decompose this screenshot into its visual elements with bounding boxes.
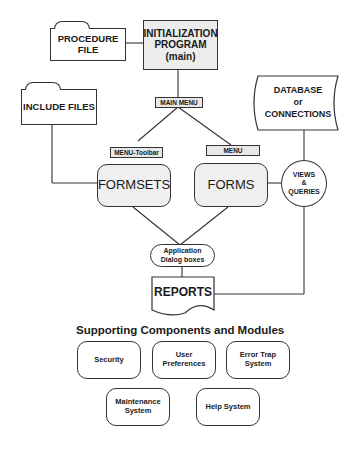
procedure-file-label: PROCEDURE FILE <box>51 34 125 56</box>
database-label-1: DATABASE <box>274 85 323 97</box>
init-label-2: PROGRAM <box>154 39 206 51</box>
menu-node: MENU <box>206 145 260 156</box>
reports-node: REPORTS <box>152 280 214 306</box>
dialog-label-2: Dialog boxes <box>161 256 205 264</box>
procedure-file-node: PROCEDURE FILE <box>50 28 126 61</box>
support-item-security: Security <box>77 341 141 379</box>
main-menu-node: MAIN MENU <box>155 97 203 108</box>
support-item-user-preferences: User Preferences <box>152 341 216 379</box>
support-label: Help System <box>205 403 250 412</box>
views-label-2: & <box>301 179 306 187</box>
init-label-3: (main) <box>166 51 196 63</box>
database-node: DATABASE or CONNECTIONS <box>258 76 338 130</box>
database-label-3: CONNECTIONS <box>265 109 332 121</box>
forms-node: FORMS <box>194 163 268 207</box>
support-item-maintenance: Maintenance System <box>106 388 170 426</box>
dialog-boxes-node: Application Dialog boxes <box>150 244 215 267</box>
support-label: Security <box>94 356 124 365</box>
views-label-3: QUERIES <box>288 188 320 196</box>
forms-label: FORMS <box>208 178 255 193</box>
views-label-1: VIEWS <box>293 171 316 179</box>
initialization-program-node: INITIALIZATION PROGRAM (main) <box>143 20 218 70</box>
main-menu-label: MAIN MENU <box>160 99 198 106</box>
menu-toolbar-node: MENU-Toolbar <box>110 147 163 158</box>
dialog-label-1: Application <box>163 247 201 255</box>
supporting-heading: Supporting Components and Modules <box>76 324 284 336</box>
include-files-node: INCLUDE FILES <box>21 89 97 125</box>
views-queries-node: VIEWS & QUERIES <box>281 160 327 207</box>
support-item-help-system: Help System <box>196 388 260 426</box>
support-item-error-trap: Error Trap System <box>226 341 290 379</box>
init-label-1: INITIALIZATION <box>143 28 217 40</box>
include-files-label: INCLUDE FILES <box>23 102 95 113</box>
reports-label: REPORTS <box>154 285 212 301</box>
menu-toolbar-label: MENU-Toolbar <box>114 149 159 156</box>
database-label-2: or <box>294 97 303 109</box>
formsets-label: FORMSETS <box>98 178 170 193</box>
support-label: System <box>125 407 152 416</box>
formsets-node: FORMSETS <box>97 164 171 207</box>
support-label: System <box>245 360 272 369</box>
support-label: Preferences <box>163 360 206 369</box>
menu-label: MENU <box>223 147 242 154</box>
